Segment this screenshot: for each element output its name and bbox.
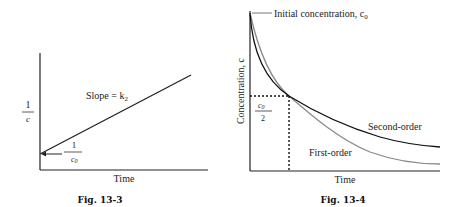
ylabel-numerator: 1 bbox=[26, 99, 31, 110]
linear-plot-line bbox=[40, 75, 191, 154]
xlabel: Time bbox=[114, 173, 135, 184]
half-denominator: 2 bbox=[261, 114, 265, 123]
fig-13-4: Initial concentration, c0 c0 2 Concentra… bbox=[235, 8, 440, 205]
ylabel-denominator: c bbox=[26, 114, 30, 124]
intercept-denominator: c0 bbox=[71, 155, 78, 164]
ylabel: Concentration, c bbox=[235, 57, 246, 124]
slope-label: Slope = k2 bbox=[86, 90, 128, 103]
fig-13-3: 1 c Slope = k2 1 c0 Time Fig. 13-3 bbox=[22, 53, 208, 205]
half-numerator: c0 bbox=[258, 101, 265, 110]
series-label-second-order: Second-order bbox=[368, 121, 423, 132]
figure-caption: Fig. 13-3 bbox=[78, 195, 123, 205]
series-label-first-order: First-order bbox=[309, 147, 352, 158]
intercept-numerator: 1 bbox=[72, 140, 77, 150]
first-order-curve bbox=[250, 13, 440, 164]
figure-canvas: 1 c Slope = k2 1 c0 Time Fig. 13-3 Initi… bbox=[0, 0, 458, 207]
figure-caption: Fig. 13-4 bbox=[321, 195, 366, 205]
xlabel: Time bbox=[335, 174, 356, 185]
initial-concentration-label: Initial concentration, c0 bbox=[274, 8, 368, 21]
